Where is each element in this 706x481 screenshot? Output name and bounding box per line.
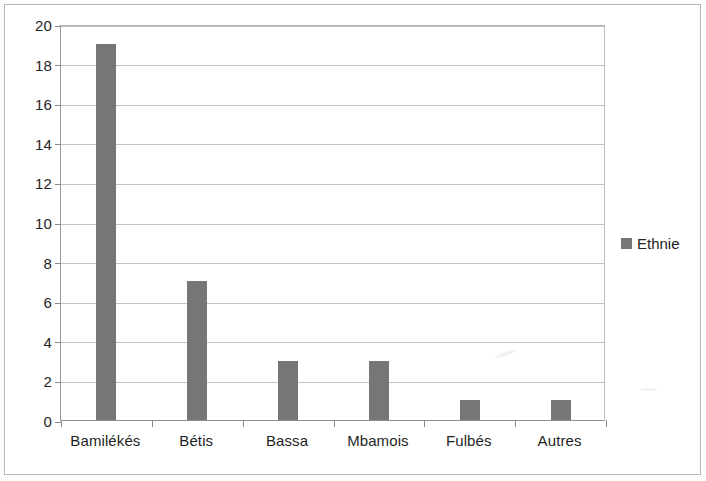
- x-tick-label: Mbamois: [347, 432, 409, 449]
- y-tick-label: 8: [43, 254, 52, 271]
- y-tick-mark: [55, 65, 61, 66]
- y-tick-label: 0: [43, 413, 52, 430]
- plot-area: [60, 25, 605, 421]
- bar: [460, 400, 480, 420]
- bar: [551, 400, 571, 420]
- x-tick-mark: [424, 420, 425, 427]
- x-axis-end-tick: [606, 420, 607, 427]
- x-tick-mark: [152, 420, 153, 427]
- x-tick-label: Bamilékés: [70, 432, 140, 449]
- y-tick-mark: [55, 224, 61, 225]
- y-tick-label: 14: [35, 135, 52, 152]
- legend-label-ethnie: Ethnie: [637, 235, 680, 252]
- gridline: [61, 263, 604, 264]
- y-tick-label: 10: [35, 215, 52, 232]
- gridline: [61, 342, 604, 343]
- gridline: [61, 303, 604, 304]
- bar: [278, 361, 298, 420]
- y-tick-label: 20: [35, 17, 52, 34]
- y-tick-label: 4: [43, 333, 52, 350]
- y-axis: 02468101214161820: [0, 25, 52, 421]
- y-tick-label: 6: [43, 294, 52, 311]
- y-tick-mark: [55, 26, 61, 27]
- x-tick-label: Bétis: [179, 432, 213, 449]
- gridline: [61, 382, 604, 383]
- chart-figure: 02468101214161820 BamilékésBétisBassaMba…: [0, 0, 706, 481]
- y-tick-label: 16: [35, 96, 52, 113]
- gridline: [61, 105, 604, 106]
- bar: [96, 44, 116, 420]
- x-tick-label: Bassa: [266, 432, 308, 449]
- y-tick-mark: [55, 263, 61, 264]
- x-tick-label: Autres: [538, 432, 582, 449]
- x-tick-mark: [515, 420, 516, 427]
- x-tick-mark: [243, 420, 244, 427]
- gridline: [61, 224, 604, 225]
- gridline: [61, 26, 604, 27]
- y-tick-mark: [55, 184, 61, 185]
- y-tick-label: 2: [43, 373, 52, 390]
- chart-legend: Ethnie: [621, 235, 680, 252]
- y-tick-mark: [55, 382, 61, 383]
- bar: [369, 361, 389, 420]
- y-tick-mark: [55, 144, 61, 145]
- gridline: [61, 144, 604, 145]
- y-tick-mark: [55, 303, 61, 304]
- x-tick-mark: [334, 420, 335, 427]
- bar: [187, 281, 207, 420]
- x-axis: BamilékésBétisBassaMbamoisFulbésAutres: [60, 432, 605, 458]
- y-tick-mark: [55, 105, 61, 106]
- gridline: [61, 65, 604, 66]
- x-tick-label: Fulbés: [446, 432, 492, 449]
- x-axis-end-tick: [61, 420, 62, 427]
- gridline: [61, 184, 604, 185]
- legend-swatch-ethnie: [621, 238, 632, 249]
- y-tick-label: 12: [35, 175, 52, 192]
- y-tick-mark: [55, 342, 61, 343]
- y-tick-label: 18: [35, 56, 52, 73]
